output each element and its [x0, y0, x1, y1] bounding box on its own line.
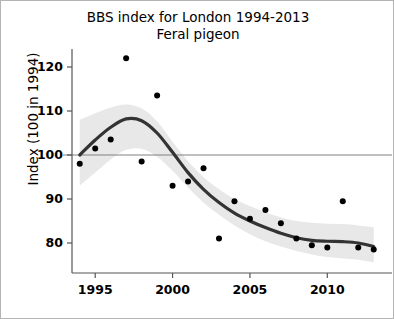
confidence-band — [80, 104, 374, 262]
chart-figure: BBS index for London 1994-2013 Feral pig… — [0, 0, 394, 319]
data-points — [77, 55, 377, 252]
plot-area — [1, 1, 394, 319]
